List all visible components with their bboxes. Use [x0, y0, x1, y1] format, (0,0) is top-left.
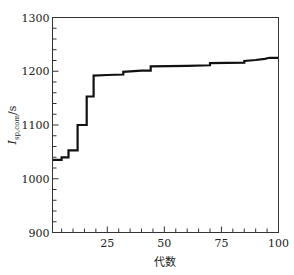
x-tick-label: 100: [268, 237, 289, 250]
y-tick-label: 1200: [22, 65, 50, 78]
x-axis-title: 代数: [154, 256, 176, 269]
chart: 9001000110012001300 255075100 代数 Isp,com…: [0, 0, 294, 275]
y-tick-label: 1000: [22, 173, 50, 186]
y-tick-label: 1300: [22, 12, 50, 25]
x-tick-label: 25: [100, 237, 114, 250]
y-tick-labels: 9001000110012001300: [22, 12, 50, 240]
data-line: [53, 58, 279, 160]
x-tick-label: 50: [157, 237, 171, 250]
y-tick-label: 1100: [22, 119, 50, 132]
y-axis-title: Isp,com/s: [6, 105, 21, 145]
x-tick-label: 75: [214, 237, 228, 250]
x-tick-labels: 255075100: [100, 237, 289, 250]
y-tick-label: 900: [29, 227, 50, 240]
